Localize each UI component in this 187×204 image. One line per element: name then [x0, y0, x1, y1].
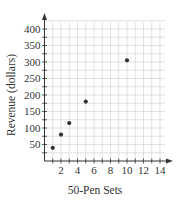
x-tick-label: 2 [58, 164, 64, 176]
y-tick-label: 250 [24, 72, 41, 84]
x-tick-label: 6 [91, 164, 97, 176]
data-point [51, 146, 55, 150]
axes [42, 13, 173, 164]
x-tick-label: 12 [138, 164, 149, 176]
x-tick-label: 14 [155, 164, 167, 176]
data-point [59, 133, 63, 137]
data-point [84, 100, 88, 104]
y-tick-label: 350 [24, 39, 41, 51]
y-tick-label: 150 [24, 105, 41, 117]
scatter-chart: 246810121450100150200250300350400 50-Pen… [0, 0, 187, 204]
y-axis-title: Revenue (dollars) [5, 54, 18, 136]
y-tick-label: 200 [24, 89, 41, 101]
data-point [125, 58, 129, 62]
grid-lines [45, 21, 165, 161]
y-tick-label: 400 [24, 23, 41, 35]
x-tick-label: 8 [108, 164, 114, 176]
x-tick-label: 10 [122, 164, 134, 176]
y-tick-label: 300 [24, 56, 41, 68]
x-axis-title: 50-Pen Sets [68, 184, 123, 196]
x-tick-label: 4 [75, 164, 81, 176]
data-point [67, 121, 71, 125]
y-axis-arrow-icon [42, 13, 47, 20]
y-tick-label: 50 [30, 138, 42, 150]
x-axis-arrow-icon [166, 159, 173, 164]
y-tick-label: 100 [24, 122, 41, 134]
